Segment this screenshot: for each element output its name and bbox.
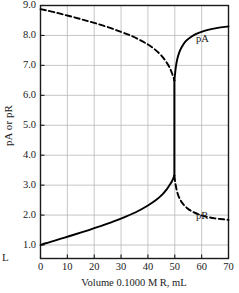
y-tick-label: 6.0 <box>10 90 36 101</box>
x-tick-label: 30 <box>109 262 133 273</box>
x-tick-label: 60 <box>190 262 214 273</box>
y-tick-label: 5.0 <box>10 120 36 131</box>
curve-label-pA: pA <box>196 34 209 45</box>
x-tick-label: 10 <box>55 262 79 273</box>
y-tick-label: 3.0 <box>10 180 36 191</box>
x-tick-label: 0 <box>29 262 53 273</box>
y-tick-label: 9.0 <box>10 0 36 11</box>
x-axis-title: Volume 0.1000 M R, mL <box>40 277 228 288</box>
curve-pR-pre-equivalence <box>41 176 175 245</box>
x-tick-label: 50 <box>163 262 187 273</box>
x-tick-label: 40 <box>136 262 160 273</box>
y-tick-label: 7.0 <box>10 60 36 71</box>
titration-curve-figure: L pA or pR Volume 0.1000 M R, mL 1.02.03… <box>0 0 238 293</box>
curve-pA-pre-equivalence <box>41 9 175 80</box>
x-tick-label: 70 <box>217 262 239 273</box>
y-tick-label: 4.0 <box>10 150 36 161</box>
y-axis-tick-labels: 1.02.03.04.05.06.07.08.09.0 <box>8 0 36 293</box>
y-tick-label: 8.0 <box>10 30 36 41</box>
y-tick-label: 1.0 <box>10 240 36 251</box>
curve-label-pR: pR <box>196 211 208 222</box>
x-tick-label: 20 <box>82 262 106 273</box>
y-tick-label: 2.0 <box>10 210 36 221</box>
